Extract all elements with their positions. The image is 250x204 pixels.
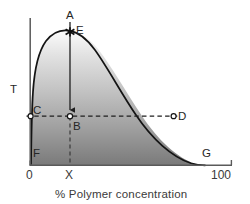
point-label-d: D [178, 111, 186, 123]
two-phase-region-fill [31, 31, 205, 165]
point-marker-d [171, 114, 176, 119]
point-marker-b [67, 114, 72, 119]
point-label-g: G [202, 148, 211, 160]
phase-diagram-figure: T A E C B D F G 0 X 100 % Polymer concen… [0, 0, 250, 204]
x-axis-title: % Polymer concentration [55, 188, 187, 200]
point-label-a: A [66, 10, 74, 22]
y-axis-label: T [10, 84, 17, 96]
x-tick-label-100: 100 [211, 169, 231, 181]
point-label-b: B [73, 121, 81, 133]
x-tick-label-0: 0 [26, 169, 33, 181]
point-label-e: E [76, 25, 84, 37]
point-label-c: C [33, 105, 41, 117]
x-tick-label-x: X [65, 169, 73, 181]
point-label-f: F [33, 148, 40, 160]
